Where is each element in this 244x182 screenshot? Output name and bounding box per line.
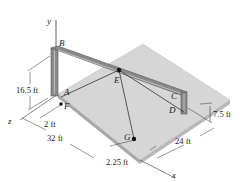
x-axis [140, 160, 175, 178]
dimension-7-5-ft: 7.5 ft [213, 110, 231, 119]
dimension-16-5-ft: 16.5 ft [16, 86, 38, 95]
plate-top [58, 44, 230, 160]
dimension-32-ft: 32 ft [47, 134, 63, 143]
axis-label-x: x [172, 171, 176, 180]
dimension-2-ft: 2 ft [44, 120, 56, 129]
point-label-c: C [171, 92, 177, 101]
point-e [117, 68, 121, 72]
point-label-a: A [64, 88, 70, 97]
point-label-e: E [114, 76, 120, 85]
point-label-b: B [59, 39, 65, 48]
dimension-24-ft: 24 ft [175, 137, 191, 146]
point-label-f: F [64, 102, 70, 111]
dimension-2-25-ft: 2.25 ft [106, 158, 128, 167]
axis-label-y: y [47, 17, 51, 26]
z-axis [20, 94, 58, 120]
point-label-d: D [169, 106, 176, 115]
axis-label-z: z [8, 117, 12, 126]
point-label-g: G [124, 133, 131, 142]
